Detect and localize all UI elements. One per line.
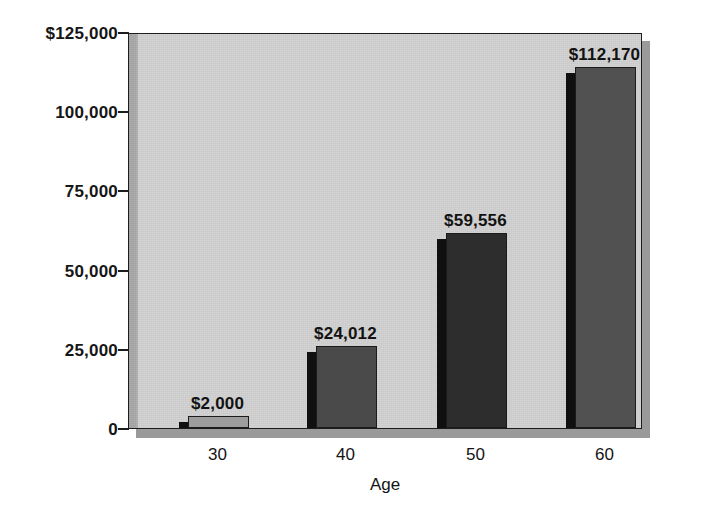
bar-front-face bbox=[575, 67, 636, 428]
plot-area bbox=[128, 33, 642, 429]
bar-side-face bbox=[307, 352, 316, 428]
plot-left-wall bbox=[129, 34, 138, 428]
bar-side-face bbox=[179, 422, 188, 428]
x-axis-tick-label: 50 bbox=[466, 446, 485, 463]
bar-side-face bbox=[566, 73, 575, 428]
y-axis-tick-label: 100,000 bbox=[6, 104, 118, 121]
x-axis-title: Age bbox=[128, 476, 642, 493]
y-axis-tick-label: $125,000 bbox=[6, 25, 118, 42]
x-axis-tick-label: 60 bbox=[595, 446, 614, 463]
y-axis-tick-label: 75,000 bbox=[6, 183, 118, 200]
bar-value-label: $2,000 bbox=[191, 395, 244, 412]
y-axis-tick-label: 25,000 bbox=[6, 341, 118, 358]
x-axis-labels: 30405060 bbox=[128, 446, 642, 472]
y-axis-tick-label: 50,000 bbox=[6, 262, 118, 279]
bar-front-face bbox=[446, 233, 507, 428]
plot-texture-overlay bbox=[129, 34, 641, 428]
bar-chart: $125,000100,00075,00050,00025,0000 30405… bbox=[0, 0, 728, 517]
y-axis-tick-label: 0 bbox=[6, 421, 118, 438]
bar-30 bbox=[179, 416, 249, 428]
x-axis-tick-label: 40 bbox=[336, 446, 355, 463]
bar-40 bbox=[307, 346, 377, 428]
bar-front-face bbox=[188, 416, 249, 428]
x-axis-tick-label: 30 bbox=[208, 446, 227, 463]
bar-front-face bbox=[316, 346, 377, 428]
bar-value-label: $112,170 bbox=[569, 46, 641, 63]
y-axis-labels: $125,000100,00075,00050,00025,0000 bbox=[0, 0, 118, 517]
bar-side-face bbox=[437, 239, 446, 428]
bar-value-label: $59,556 bbox=[444, 212, 507, 229]
bar-value-label: $24,012 bbox=[314, 325, 377, 342]
bar-60 bbox=[566, 67, 636, 428]
bar-50 bbox=[437, 233, 507, 428]
